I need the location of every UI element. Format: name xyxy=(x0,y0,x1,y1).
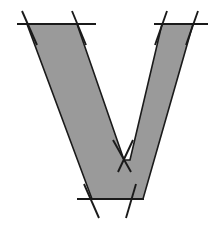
v-figure-svg xyxy=(0,0,219,225)
figure-canvas xyxy=(0,0,219,225)
